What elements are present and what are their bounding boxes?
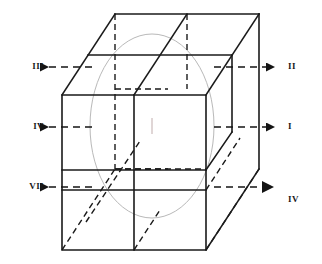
octant-label-right-top: II xyxy=(288,62,320,71)
diagram-canvas: III IV VII II I IV xyxy=(0,0,322,264)
right-face-band-connector xyxy=(206,132,232,170)
cube-diagram-svg xyxy=(0,0,322,264)
octant-label-right-bottom: IV xyxy=(288,195,320,204)
octant-label-left-bottom: VII xyxy=(10,182,44,191)
hidden-edge-diagonal-lower-left xyxy=(86,141,140,222)
octant-label-left-top: III xyxy=(10,62,44,71)
octant-label-left-middle: IV xyxy=(10,122,44,131)
right-face-bottom-connector xyxy=(206,169,259,250)
visible-edges-group xyxy=(62,14,259,250)
octant-label-right-middle: I xyxy=(288,122,320,131)
hidden-edge-diagonal-bottom xyxy=(62,169,115,250)
